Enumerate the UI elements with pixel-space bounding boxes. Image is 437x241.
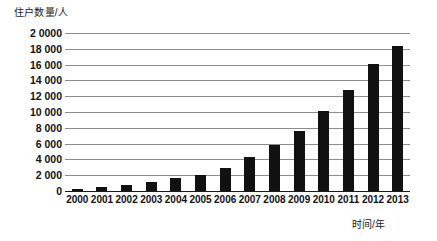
x-axis-tick-labels: 2000200120022003200420052006200720082009…	[65, 194, 410, 210]
bar	[244, 157, 255, 191]
bar	[318, 111, 329, 191]
bar	[96, 187, 107, 191]
y-axis-tick-label: 0	[0, 185, 62, 197]
bar	[368, 64, 379, 191]
x-axis-tick-label: 2002	[115, 194, 137, 205]
y-axis-tick-labels: 02 0004 0006 0008 00010 00012 00014 0001…	[0, 0, 62, 241]
y-axis-tick-label: 2 0000	[0, 27, 62, 39]
x-axis-tick-label: 2007	[239, 194, 261, 205]
y-axis-tick-label: 4 000	[0, 153, 62, 165]
x-axis-tick-label: 2010	[313, 194, 335, 205]
y-axis-tick-label: 18 000	[0, 43, 62, 55]
plot-area	[65, 33, 410, 191]
x-axis-tick-label: 2005	[189, 194, 211, 205]
x-axis-tick-label: 2000	[66, 194, 88, 205]
bar	[269, 145, 280, 191]
y-axis-tick-label: 14 000	[0, 74, 62, 86]
bar	[170, 178, 181, 191]
y-axis-tick-label: 8 000	[0, 122, 62, 134]
bar-chart: 住户数量/人 02 0004 0006 0008 00010 00012 000…	[0, 0, 437, 241]
bar	[72, 189, 83, 191]
bars-layer	[65, 33, 410, 191]
y-axis-tick-label: 12 000	[0, 90, 62, 102]
axis-baseline	[65, 191, 410, 192]
y-axis-tick-label: 2 000	[0, 169, 62, 181]
x-axis-title: 时间/年	[352, 216, 385, 231]
y-axis-tick-label: 16 000	[0, 59, 62, 71]
x-axis-tick-label: 2003	[140, 194, 162, 205]
x-axis-tick-label: 2013	[387, 194, 409, 205]
x-axis-tick-label: 2006	[214, 194, 236, 205]
bar	[121, 185, 132, 191]
bar	[392, 46, 403, 191]
x-axis-tick-label: 2004	[165, 194, 187, 205]
bar	[343, 90, 354, 191]
bar	[220, 168, 231, 191]
bar	[195, 175, 206, 191]
bar	[146, 182, 157, 191]
x-axis-tick-label: 2011	[338, 194, 360, 205]
y-axis-tick-label: 6 000	[0, 138, 62, 150]
x-axis-tick-label: 2008	[263, 194, 285, 205]
y-axis-tick-label: 10 000	[0, 106, 62, 118]
x-axis-tick-label: 2009	[288, 194, 310, 205]
x-axis-tick-label: 2001	[91, 194, 113, 205]
x-axis-tick-label: 2012	[362, 194, 384, 205]
bar	[294, 131, 305, 191]
